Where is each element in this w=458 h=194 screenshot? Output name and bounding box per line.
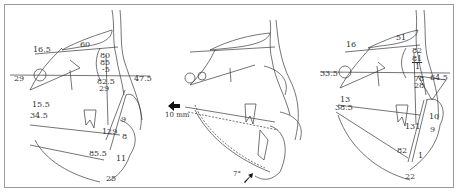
label-anb: 1 (415, 63, 420, 71)
label-palatal: 51 (396, 34, 406, 42)
label-lower-2: 11 (116, 155, 126, 163)
label-anb: -5 (102, 66, 110, 74)
label-impa: 131 (405, 123, 420, 131)
label-incisor-1: 9 (121, 116, 126, 124)
arrow-left-icon (168, 101, 180, 111)
label-palatal: 60 (80, 41, 90, 49)
panel-superimposition-lines (185, 20, 301, 179)
label-facial-plane: 47.5 (134, 75, 152, 83)
label-incisor-2: 8 (122, 133, 127, 141)
label-mp-1: 15.5 (32, 101, 50, 109)
label-incisor-2: 9 (430, 126, 435, 134)
label-lower-1: 82 (397, 147, 407, 155)
label-apdi: 29 (99, 85, 109, 93)
label-sn-angle: 16.5 (33, 46, 51, 54)
label-chin: 25 (106, 175, 116, 183)
label-impa: 129 (102, 128, 117, 136)
label-incisor-1: 10 (429, 113, 439, 121)
label-rotation: 7° (233, 170, 241, 178)
label-apdi: 28 (414, 82, 424, 90)
label-chin: 22 (405, 173, 415, 181)
panel-pre-lines (10, 10, 150, 182)
label-fh: 33.5 (320, 70, 338, 78)
label-movement: 10 mm (165, 111, 189, 119)
label-lower-1: 85.5 (89, 150, 107, 158)
label-mp-2: 34.5 (30, 112, 48, 120)
label-mp-2: 38.5 (335, 104, 353, 112)
label-fh: 29 (14, 75, 24, 83)
label-sn-angle: 16 (346, 41, 356, 49)
label-lower-2: 1 (418, 152, 423, 160)
tracing-lines (0, 0, 458, 194)
arrow-up-right-icon (244, 173, 253, 183)
label-facial-plane: 64.5 (430, 74, 448, 82)
